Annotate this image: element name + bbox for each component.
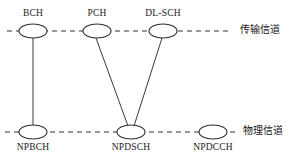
diagram-nodes bbox=[19, 24, 227, 139]
node-label-pch: PCH bbox=[64, 8, 130, 19]
node-label-npbch: NPBCH bbox=[0, 142, 66, 153]
node-ellipse-dl-sch[interactable] bbox=[149, 24, 177, 38]
node-label-dl-sch: DL-SCH bbox=[130, 8, 196, 19]
node-ellipse-npdcch[interactable] bbox=[199, 125, 227, 139]
layer-lines bbox=[5, 31, 238, 132]
node-ellipse-npbch[interactable] bbox=[19, 125, 47, 139]
node-label-bch: BCH bbox=[0, 8, 66, 19]
connection-lines bbox=[33, 38, 162, 126]
connection-dlsch-npdsch bbox=[134, 38, 162, 126]
channel-mapping-diagram: BCH PCH DL-SCH NPBCH NPDSCH NPDCCH 传输信道 … bbox=[0, 0, 295, 166]
node-ellipse-bch[interactable] bbox=[19, 24, 47, 38]
layer-label-physical: 物理信道 bbox=[243, 125, 283, 137]
layer-label-transport: 传输信道 bbox=[240, 24, 280, 36]
node-label-npdsch: NPDSCH bbox=[98, 142, 164, 153]
connection-pch-npdsch bbox=[96, 38, 128, 126]
node-ellipse-npdsch[interactable] bbox=[117, 125, 145, 139]
node-label-npdcch: NPDCCH bbox=[180, 142, 246, 153]
node-ellipse-pch[interactable] bbox=[83, 24, 111, 38]
